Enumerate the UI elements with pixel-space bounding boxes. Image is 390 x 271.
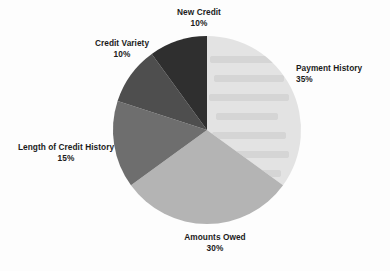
pie-label-length-of-credit-history-name: Length of Credit History (4, 142, 128, 153)
pie-label-amounts-owed-name: Amounts Owed (152, 232, 278, 243)
pie-label-payment-history: Payment History 35% (296, 63, 362, 86)
pie-label-new-credit-name: New Credit (140, 7, 258, 18)
pie-label-new-credit: New Credit 10% (140, 7, 258, 30)
pie-label-amounts-owed-percent: 30% (152, 243, 278, 254)
pie-label-payment-history-name: Payment History (296, 63, 362, 74)
pie-label-credit-variety-percent: 10% (62, 49, 182, 60)
pie-slices-group (113, 36, 301, 224)
pie-label-length-of-credit-history: Length of Credit History 15% (4, 142, 128, 165)
pie-chart-figure: Payment History 35% Amounts Owed 30% Len… (0, 0, 390, 271)
pie-label-amounts-owed: Amounts Owed 30% (152, 232, 278, 255)
pie-label-length-of-credit-history-percent: 15% (4, 153, 128, 164)
pie-label-credit-variety: Credit Variety 10% (62, 38, 182, 61)
pie-label-payment-history-percent: 35% (296, 74, 362, 85)
pie-chart-canvas (0, 0, 390, 271)
pie-label-new-credit-percent: 10% (140, 18, 258, 29)
pie-label-credit-variety-name: Credit Variety (62, 38, 182, 49)
